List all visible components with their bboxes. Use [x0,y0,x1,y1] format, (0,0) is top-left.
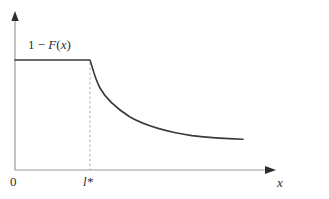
threshold-tick-label: l* [83,175,93,188]
curve-label: 1 − F(x) [28,38,71,51]
survival-function-figure: 1 − F(x) 0 l* x [0,0,329,199]
y-axis-arrowhead-icon [11,11,18,21]
curve-label-paren-close: ) [66,37,70,52]
survival-curve [15,60,243,139]
curve-label-minus: − [38,37,49,52]
xaxis-label: x [277,176,283,189]
origin-tick-label: 0 [10,175,17,188]
curve-label-one: 1 [28,37,38,52]
plot-area [0,0,329,199]
x-axis-arrowhead-icon [265,166,276,174]
